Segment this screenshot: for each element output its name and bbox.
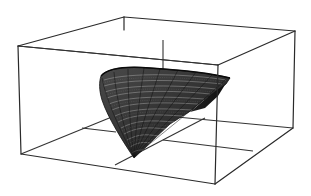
box-bottom-front-edge — [21, 154, 215, 184]
surface-plot-figure — [0, 0, 311, 196]
box-bottom-right-edge — [215, 128, 293, 184]
box-front-left-vertical — [18, 46, 21, 154]
surface-shell — [100, 67, 230, 158]
plot-canvas — [0, 0, 311, 196]
box-top-face — [18, 17, 295, 65]
mesh-surface — [100, 67, 230, 158]
box-back-right-vertical — [293, 31, 295, 128]
box-top-left-edge — [18, 17, 124, 46]
floor-axis-x-right — [163, 140, 253, 151]
box-top-right-edge — [218, 31, 295, 65]
top-crossing-line — [18, 46, 218, 65]
floor-axis-x-left — [82, 128, 116, 132]
floor-back-left-edge — [21, 112, 124, 154]
box-top-back-edge — [124, 17, 295, 31]
